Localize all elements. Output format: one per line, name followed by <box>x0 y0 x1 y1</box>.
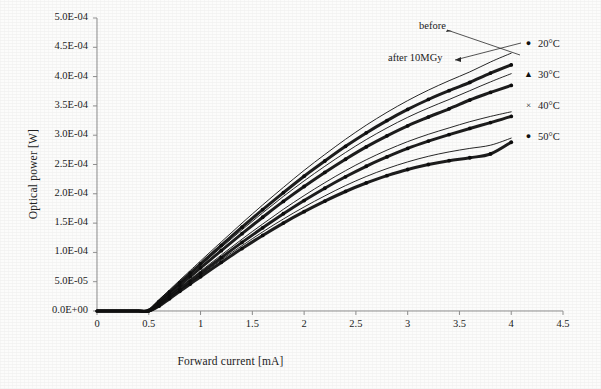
data-point <box>447 89 451 93</box>
data-point <box>489 91 493 95</box>
chart-figure: Optical power [W] Forward current [mA] 0… <box>0 0 601 389</box>
curve-40-c-after-10mgy <box>97 116 511 311</box>
data-point <box>426 98 430 102</box>
data-point <box>406 168 410 172</box>
data-point <box>468 81 472 85</box>
y-tick-label: 2.0E-04 <box>18 187 88 198</box>
data-point <box>323 199 327 203</box>
data-point <box>509 115 513 119</box>
annotation-after-10mgy: after 10MGy <box>388 52 443 63</box>
x-tick-label: 1 <box>181 318 221 329</box>
x-marker-icon: × <box>524 101 533 110</box>
data-point <box>447 133 451 137</box>
y-tick-label: 5.0E-04 <box>18 11 88 22</box>
data-point <box>199 275 203 279</box>
data-point <box>240 241 244 245</box>
x-tick-label: 4 <box>491 318 531 329</box>
legend-item-30c: ▲30°C <box>524 67 560 81</box>
annotation-before: before <box>419 20 446 31</box>
data-point <box>302 174 306 178</box>
x-axis-title-text: Forward current [mA] <box>177 355 283 367</box>
y-tick-label: 2.5E-04 <box>18 158 88 169</box>
data-point <box>323 171 327 175</box>
data-point <box>489 121 493 125</box>
data-point <box>447 159 451 163</box>
legend-label: 30°C <box>538 69 560 80</box>
data-point <box>426 163 430 167</box>
legend-label: 20°C <box>538 38 560 49</box>
data-point <box>364 181 368 185</box>
data-point <box>468 156 472 160</box>
data-point <box>468 98 472 102</box>
annotation-leader-lines <box>446 30 521 62</box>
data-point <box>282 200 286 204</box>
data-point <box>364 131 368 135</box>
data-point <box>489 152 493 156</box>
x-tick-label: 0.5 <box>129 318 169 329</box>
legend-item-40c: ×40°C <box>524 98 560 112</box>
curve-50-c-before <box>97 138 511 311</box>
y-tick-label: 0.0E+00 <box>18 304 88 315</box>
curve-50-c-after-10mgy <box>97 142 511 311</box>
data-point <box>282 221 286 225</box>
y-tick-label: 1.0E-04 <box>18 245 88 256</box>
data-point <box>426 139 430 143</box>
x-tick-label: 4.5 <box>543 318 583 329</box>
legend-label: 50°C <box>538 131 560 142</box>
data-point <box>188 282 192 286</box>
triangle-marker-icon: ▲ <box>524 70 533 79</box>
x-tick-label: 2.5 <box>336 318 376 329</box>
data-point <box>219 249 223 253</box>
x-axis-title: Forward current [mA] <box>0 355 601 367</box>
y-tick-label: 1.5E-04 <box>18 216 88 227</box>
data-point <box>489 71 493 75</box>
data-point <box>282 191 286 195</box>
dot-marker-icon: ● <box>524 39 533 48</box>
legend-label: 40°C <box>538 100 560 111</box>
y-tick-label: 4.5E-04 <box>18 40 88 51</box>
chart-plot-area <box>0 0 601 389</box>
x-tick-label: 1.5 <box>232 318 272 329</box>
data-point <box>468 127 472 131</box>
curve-30-c-after-10mgy <box>97 85 511 311</box>
data-point <box>261 215 265 219</box>
x-tick-label: 3.5 <box>439 318 479 329</box>
legend-item-50c: ●50°C <box>524 129 560 143</box>
data-point <box>344 190 348 194</box>
data-point <box>323 159 327 163</box>
data-point <box>302 210 306 214</box>
dot-marker-icon: ● <box>524 132 533 141</box>
data-point <box>385 119 389 123</box>
data-point <box>261 226 265 230</box>
data-point <box>406 124 410 128</box>
data-point <box>406 146 410 150</box>
y-tick-label: 5.0E-05 <box>18 275 88 286</box>
data-point <box>168 297 172 301</box>
data-point <box>406 108 410 112</box>
legend-item-20c: ●20°C <box>524 36 560 50</box>
data-point <box>199 266 203 270</box>
data-point <box>302 185 306 189</box>
data-point <box>157 304 161 308</box>
data-point <box>344 175 348 179</box>
y-tick-label: 4.0E-04 <box>18 70 88 81</box>
data-point <box>302 199 306 203</box>
y-tick-label: 3.5E-04 <box>18 99 88 110</box>
data-point <box>385 155 389 159</box>
data-point <box>364 164 368 168</box>
data-point <box>344 157 348 161</box>
chart-axes <box>93 18 563 315</box>
x-tick-label: 0 <box>77 318 117 329</box>
data-point <box>261 234 265 238</box>
data-point <box>219 260 223 264</box>
data-point <box>178 289 182 293</box>
data-point <box>240 232 244 236</box>
x-tick-label: 2 <box>284 318 324 329</box>
x-tick-label: 3 <box>388 318 428 329</box>
data-point <box>240 247 244 251</box>
data-point <box>509 63 513 67</box>
data-point <box>509 83 513 87</box>
y-tick-label: 3.0E-04 <box>18 128 88 139</box>
data-point <box>282 212 286 216</box>
data-point <box>509 140 513 144</box>
